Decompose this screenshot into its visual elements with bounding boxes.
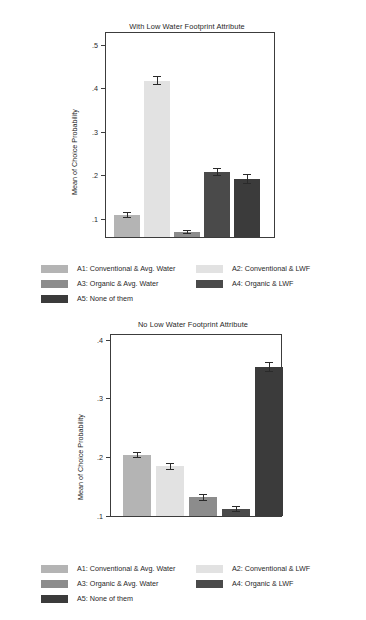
errorbar-a3 <box>183 230 191 234</box>
panel-bottom-title: No Low Water Footprint Attribute <box>68 320 318 329</box>
legend-bottom: A1: Conventional & Avg. Water A2: Conven… <box>0 560 366 610</box>
legend-swatch-a3 <box>41 280 68 288</box>
errorbar-a3 <box>199 494 207 501</box>
legend-top: A1: Conventional & Avg. Water A2: Conven… <box>0 260 366 310</box>
ytick-label: .2 <box>84 453 103 462</box>
bar-a2 <box>156 466 184 516</box>
legend-item-a1: A1: Conventional & Avg. Water <box>41 264 175 273</box>
panel-with-lwf: With Low Water Footprint Attribute Mean … <box>0 0 366 250</box>
errorbar-a1 <box>133 452 141 458</box>
legend-label-a3: A3: Organic & Avg. Water <box>77 279 159 288</box>
legend-swatch-a5 <box>41 295 68 303</box>
legend-item-a3: A3: Organic & Avg. Water <box>41 579 159 588</box>
bar-a1 <box>114 215 140 237</box>
panel-top-ylabel: Mean of Choice Probability <box>70 109 79 195</box>
bar-a5 <box>255 367 283 516</box>
ytick-label: .3 <box>78 128 98 137</box>
legend-item-a2: A2: Conventional & LWF <box>196 264 310 273</box>
legend-label-a2: A2: Conventional & LWF <box>232 564 310 573</box>
legend-label-a5: A5: None of them <box>77 594 133 603</box>
ytick-label: .5 <box>78 41 98 50</box>
legend-swatch-a4 <box>196 280 223 288</box>
ytick-label: .2 <box>78 171 98 180</box>
legend-label-a5: A5: None of them <box>77 294 133 303</box>
legend-item-a3: A3: Organic & Avg. Water <box>41 279 159 288</box>
legend-swatch-a3 <box>41 580 68 588</box>
legend-swatch-a1 <box>41 565 68 573</box>
legend-item-a4: A4: Organic & LWF <box>196 279 293 288</box>
bar-a4 <box>204 172 230 237</box>
panel-no-lwf: No Low Water Footprint Attribute Mean of… <box>0 315 366 535</box>
legend-label-a4: A4: Organic & LWF <box>232 579 293 588</box>
legend-label-a1: A1: Conventional & Avg. Water <box>77 264 175 273</box>
legend-swatch-a5 <box>41 595 68 603</box>
legend-item-a4: A4: Organic & LWF <box>196 579 293 588</box>
errorbar-a5 <box>265 362 273 372</box>
legend-swatch-a2 <box>196 265 223 273</box>
plot-area-top <box>105 32 275 238</box>
legend-label-a3: A3: Organic & Avg. Water <box>77 579 159 588</box>
ytick-label: .3 <box>84 394 103 403</box>
legend-label-a2: A2: Conventional & LWF <box>232 264 310 273</box>
errorbar-a5 <box>243 174 251 184</box>
legend-item-a2: A2: Conventional & LWF <box>196 564 310 573</box>
errorbar-a2 <box>153 76 161 85</box>
legend-swatch-a4 <box>196 580 223 588</box>
bar-a1 <box>123 455 151 516</box>
ytick-label: .4 <box>84 336 103 345</box>
errorbar-a2 <box>166 463 174 470</box>
bar-a5 <box>234 179 260 237</box>
errorbar-a4 <box>232 506 240 512</box>
ytick-label: .1 <box>84 512 103 521</box>
ytick-label: .4 <box>78 84 98 93</box>
legend-label-a1: A1: Conventional & Avg. Water <box>77 564 175 573</box>
panel-top-title: With Low Water Footprint Attribute <box>62 22 312 31</box>
errorbar-a4 <box>213 168 221 176</box>
bar-a2 <box>144 81 170 237</box>
legend-item-a1: A1: Conventional & Avg. Water <box>41 564 175 573</box>
legend-item-a5: A5: None of them <box>41 294 133 303</box>
legend-item-a5: A5: None of them <box>41 594 133 603</box>
plot-area-bottom <box>110 334 282 517</box>
legend-swatch-a1 <box>41 265 68 273</box>
errorbar-a1 <box>123 212 131 218</box>
ytick-label: .1 <box>78 215 98 224</box>
legend-label-a4: A4: Organic & LWF <box>232 279 293 288</box>
legend-swatch-a2 <box>196 565 223 573</box>
figure-root: With Low Water Footprint Attribute Mean … <box>0 0 366 620</box>
